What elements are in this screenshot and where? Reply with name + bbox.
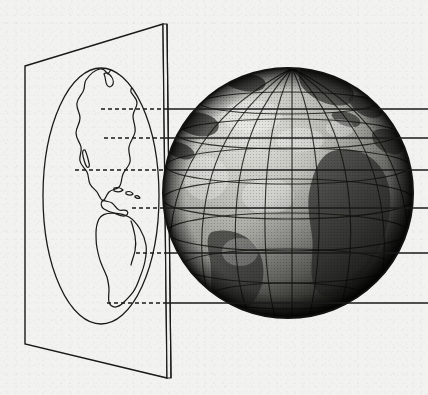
plane-face [25, 24, 167, 378]
shaded-globe [163, 68, 413, 320]
projection-figure: Globe projected onto a flat map plane Li… [0, 0, 428, 395]
projection-plane [25, 24, 171, 378]
figure-canvas [0, 0, 428, 395]
globe-halftone-screen [163, 68, 413, 318]
